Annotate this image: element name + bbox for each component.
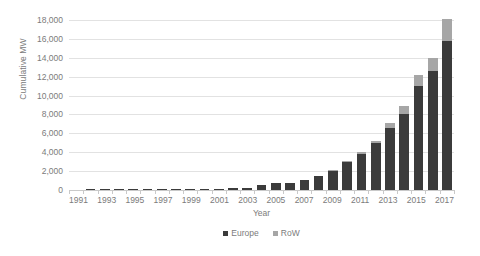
chart-legend: EuropeRoW bbox=[69, 228, 454, 238]
bar-stack[interactable] bbox=[414, 75, 424, 190]
bar-segment-europe[interactable] bbox=[357, 154, 367, 190]
x-axis-tick-label: 2009 bbox=[323, 193, 342, 207]
legend-swatch-icon bbox=[223, 231, 228, 236]
bar-group[interactable] bbox=[112, 20, 126, 190]
bar-stack[interactable] bbox=[399, 106, 409, 190]
legend-label: RoW bbox=[281, 228, 300, 238]
x-axis-tick-label bbox=[116, 193, 125, 207]
bar-group[interactable] bbox=[354, 20, 368, 190]
x-axis-tick-label bbox=[201, 193, 210, 207]
x-axis-tick-label bbox=[173, 193, 182, 207]
bar-group[interactable] bbox=[369, 20, 383, 190]
bar-group[interactable] bbox=[226, 20, 240, 190]
bar-stack[interactable] bbox=[328, 170, 338, 190]
bar-group[interactable] bbox=[411, 20, 425, 190]
x-axis-tick-label bbox=[342, 193, 351, 207]
y-axis-tick-label: 2,000 bbox=[42, 166, 63, 176]
bar-stack[interactable] bbox=[314, 176, 324, 190]
bar-stack[interactable] bbox=[357, 152, 367, 190]
x-axis-tick-label bbox=[426, 193, 435, 207]
bar-stack[interactable] bbox=[285, 183, 295, 190]
x-axis-tick-label: 2005 bbox=[266, 193, 285, 207]
chart-container: Cumulative MW 18,00016,00014,00012,00010… bbox=[0, 0, 480, 256]
x-axis-tick-label: 2017 bbox=[435, 193, 454, 207]
bar-group[interactable] bbox=[169, 20, 183, 190]
x-axis-tick-label: 1995 bbox=[125, 193, 144, 207]
bar-stack[interactable] bbox=[342, 161, 352, 190]
bar-group[interactable] bbox=[183, 20, 197, 190]
legend-swatch-icon bbox=[273, 231, 278, 236]
bar-group[interactable] bbox=[340, 20, 354, 190]
y-axis-tick-label: 18,000 bbox=[37, 15, 63, 25]
x-axis-tick-label bbox=[398, 193, 407, 207]
x-axis-tick-label: 1993 bbox=[97, 193, 116, 207]
bar-series-group bbox=[69, 20, 454, 190]
y-axis-tick-label: 12,000 bbox=[37, 72, 63, 82]
bar-stack[interactable] bbox=[371, 141, 381, 191]
legend-label: Europe bbox=[231, 228, 258, 238]
x-axis-tick-labels: 1991199319951997199920012003200520072009… bbox=[69, 193, 454, 207]
bar-group[interactable] bbox=[126, 20, 140, 190]
bar-group[interactable] bbox=[140, 20, 154, 190]
bar-group[interactable] bbox=[383, 20, 397, 190]
y-axis-tick-label: 14,000 bbox=[37, 53, 63, 63]
bar-group[interactable] bbox=[197, 20, 211, 190]
bar-segment-row[interactable] bbox=[414, 75, 424, 85]
x-axis-tick-label bbox=[88, 193, 97, 207]
x-axis-tick-label: 2003 bbox=[238, 193, 257, 207]
bar-group[interactable] bbox=[312, 20, 326, 190]
bar-group[interactable] bbox=[98, 20, 112, 190]
bar-group[interactable] bbox=[83, 20, 97, 190]
bar-segment-europe[interactable] bbox=[385, 128, 395, 190]
y-axis-title: Cumulative MW bbox=[18, 4, 28, 134]
bar-segment-europe[interactable] bbox=[371, 143, 381, 190]
bar-segment-europe[interactable] bbox=[328, 171, 338, 190]
x-axis-tick-label bbox=[285, 193, 294, 207]
bar-segment-europe[interactable] bbox=[285, 183, 295, 190]
x-axis-tick-label: 2001 bbox=[210, 193, 229, 207]
bar-group[interactable] bbox=[254, 20, 268, 190]
x-axis-tick-label: 2013 bbox=[379, 193, 398, 207]
bar-segment-europe[interactable] bbox=[342, 162, 352, 190]
x-axis-tick-label: 2011 bbox=[351, 193, 369, 207]
bar-group[interactable] bbox=[397, 20, 411, 190]
bar-group[interactable] bbox=[69, 20, 83, 190]
x-tick-mark bbox=[454, 190, 455, 194]
bar-group[interactable] bbox=[440, 20, 454, 190]
x-axis-tick-label: 2015 bbox=[407, 193, 426, 207]
bar-group[interactable] bbox=[212, 20, 226, 190]
legend-item-europe[interactable]: Europe bbox=[223, 228, 258, 238]
bar-segment-europe[interactable] bbox=[300, 180, 310, 190]
x-axis-tick-label: 1999 bbox=[182, 193, 201, 207]
bar-segment-row[interactable] bbox=[428, 58, 438, 71]
y-axis-tick-label: 16,000 bbox=[37, 34, 63, 44]
bar-segment-europe[interactable] bbox=[414, 86, 424, 190]
y-axis-tick-label: 10,000 bbox=[37, 91, 63, 101]
bar-stack[interactable] bbox=[385, 123, 395, 190]
bar-stack[interactable] bbox=[300, 180, 310, 190]
bar-group[interactable] bbox=[426, 20, 440, 190]
plot-area: 18,00016,00014,00012,00010,0008,0006,000… bbox=[69, 20, 454, 190]
x-axis-tick-label bbox=[144, 193, 153, 207]
x-axis-tick-label bbox=[314, 193, 323, 207]
bar-group[interactable] bbox=[297, 20, 311, 190]
bar-group[interactable] bbox=[283, 20, 297, 190]
bar-group[interactable] bbox=[326, 20, 340, 190]
bar-segment-europe[interactable] bbox=[428, 71, 438, 190]
legend-item-row[interactable]: RoW bbox=[273, 228, 300, 238]
bar-group[interactable] bbox=[240, 20, 254, 190]
x-axis-tick-label bbox=[257, 193, 266, 207]
bar-stack[interactable] bbox=[442, 19, 452, 190]
bar-segment-row[interactable] bbox=[442, 19, 452, 41]
bar-stack[interactable] bbox=[428, 58, 438, 190]
y-axis-tick-label: 8,000 bbox=[42, 109, 63, 119]
x-axis-title: Year bbox=[69, 208, 454, 218]
bar-group[interactable] bbox=[269, 20, 283, 190]
y-axis-tick-label: 6,000 bbox=[42, 128, 63, 138]
x-axis-tick-label: 2007 bbox=[295, 193, 314, 207]
bar-segment-row[interactable] bbox=[399, 106, 409, 114]
bar-segment-europe[interactable] bbox=[442, 41, 452, 190]
bar-segment-europe[interactable] bbox=[399, 114, 409, 190]
bar-group[interactable] bbox=[155, 20, 169, 190]
bar-segment-europe[interactable] bbox=[314, 176, 324, 190]
